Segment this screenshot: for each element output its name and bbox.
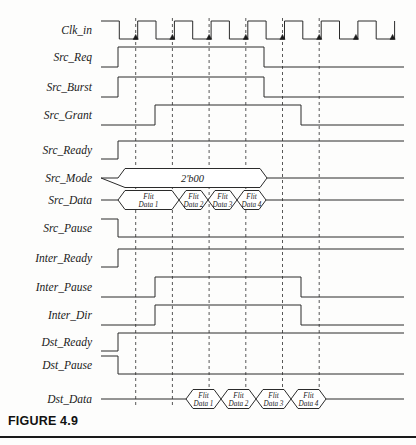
bus-cell-line1-dst_data-1: Flit (197, 392, 209, 400)
signal-label-inter_dir: Inter_Dir (47, 309, 93, 321)
bus-cell-line2-dst_data-3: Data 3 (263, 400, 284, 408)
signal-label-src_burst: Src_Burst (46, 81, 92, 93)
bus-cell-line1-src_data-3: Flit (216, 193, 228, 201)
bus-cell-line1-src_data-4: Flit (245, 193, 257, 201)
bus-cell-line2-dst_data-1: Data 1 (193, 400, 214, 408)
bus-cell-line1-dst_data-2: Flit (232, 392, 244, 400)
signal-label-inter_ready: Inter_Ready (34, 252, 93, 265)
signal-label-clk: Clk_in (61, 24, 92, 36)
signal-label-dst_pause: Dst_Pause (41, 359, 92, 371)
timing-diagram-figure: Clk_inSrc_ReqSrc_BurstSrc_GrantSrc_Ready… (0, 0, 416, 445)
signal-label-src_grant: Src_Grant (44, 109, 93, 121)
signal-label-src_data: Src_Data (48, 194, 92, 206)
signal-label-dst_ready: Dst_Ready (41, 336, 93, 349)
signal-label-src_mode: Src_Mode (45, 172, 92, 184)
waveform-inter_ready (101, 249, 404, 267)
bus-cell-line1-dst_data-4: Flit (302, 392, 314, 400)
waveform-dst_pause (101, 356, 404, 374)
signal-label-src_req: Src_Req (53, 51, 92, 64)
signal-label-src_pause: Src_Pause (43, 222, 92, 234)
bus-cell-line2-src_data-2: Data 2 (183, 201, 204, 209)
bus-cell-line2-src_data-3: Data 3 (212, 201, 233, 209)
waveform-src_req (101, 47, 404, 67)
bus-cell-line2-src_data-1: Data 1 (138, 201, 159, 209)
waveform-canvas: Clk_inSrc_ReqSrc_BurstSrc_GrantSrc_Ready… (0, 0, 416, 412)
signal-label-dst_data: Dst_Data (46, 393, 92, 405)
waveform-src_burst (101, 77, 404, 97)
bus-cell-line2-dst_data-4: Data 4 (298, 400, 319, 408)
bus-cell-line1-src_data-1: Flit (142, 193, 154, 201)
figure-caption: FIGURE 4.9 (8, 414, 78, 428)
signal-label-inter_pause: Inter_Pause (35, 281, 92, 293)
clk-waveform (101, 21, 395, 39)
waveform-dst_ready (101, 333, 404, 351)
bus-cell-line2-dst_data-2: Data 2 (228, 400, 249, 408)
waveform-src_grant (101, 105, 404, 125)
bus-cell-line2-src_data-4: Data 4 (241, 201, 262, 209)
bus-value-src_mode: 2'b00 (181, 173, 205, 184)
waveform-inter_dir (101, 305, 404, 325)
waveform-src_ready (101, 141, 404, 159)
waveform-src_pause (101, 219, 404, 237)
bus-cell-line1-dst_data-3: Flit (267, 392, 279, 400)
signal-label-src_ready: Src_Ready (43, 144, 93, 157)
figure-rule (0, 436, 416, 438)
waveform-inter_pause (101, 277, 404, 297)
bus-cell-line1-src_data-2: Flit (187, 193, 199, 201)
